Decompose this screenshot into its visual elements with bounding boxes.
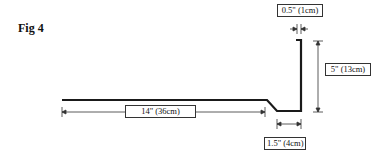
profile-outline — [62, 40, 301, 111]
profile-drawing — [0, 0, 390, 159]
thickness-dimension — [290, 24, 308, 34]
height-dimension — [313, 41, 323, 112]
thickness-label: 0.5" (1cm) — [277, 4, 323, 17]
length-label: 14" (36cm) — [125, 105, 196, 118]
height-label: 5" (13cm) — [325, 63, 371, 76]
base-dimension — [277, 119, 301, 129]
base-label: 1.5" (4cm) — [264, 137, 306, 150]
